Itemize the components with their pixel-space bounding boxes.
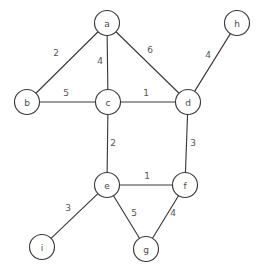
graph-edge-a-d [116,32,179,94]
edge-weight-e-f: 1 [144,171,150,181]
edge-weight-d-h: 4 [205,50,211,60]
edge-weight-c-d: 1 [143,88,149,98]
node-label-g: g [143,245,149,255]
graph-edge-c-e [107,114,108,172]
edge-weight-e-g: 5 [131,208,137,218]
graph-node-c[interactable]: c [96,90,121,115]
edge-weight-d-f: 3 [190,138,196,148]
node-label-a: a [104,19,110,29]
node-label-c: c [106,98,111,108]
graph-svg: 246514231354 abcdefghi [0,0,266,273]
graph-edge-a-b [36,32,98,93]
graph-node-d[interactable]: d [176,90,201,115]
graph-node-i[interactable]: i [30,235,55,260]
graph-edge-d-f [185,114,187,172]
node-label-h: h [234,19,240,29]
edge-weight-e-i: 3 [65,203,71,213]
graph-edge-e-i [51,194,98,239]
graph-node-g[interactable]: g [134,237,159,262]
graph-edge-d-h [195,34,231,92]
graph-node-f[interactable]: f [173,173,198,198]
edge-weight-a-b: 2 [53,48,59,58]
edge-weight-f-g: 4 [170,208,176,218]
graph-diagram: 246514231354 abcdefghi [0,0,266,273]
graph-node-h[interactable]: h [225,11,250,36]
graph-node-b[interactable]: b [15,90,40,115]
edge-weight-b-c: 5 [63,88,69,98]
node-label-e: e [104,181,110,191]
node-label-d: d [185,98,191,108]
graph-node-e[interactable]: e [95,173,120,198]
edge-weight-a-d: 6 [147,45,153,55]
graph-edge-a-c [107,35,108,89]
edge-weight-c-e: 2 [110,138,116,148]
node-label-b: b [24,98,30,108]
graph-node-a[interactable]: a [95,11,120,36]
edge-weight-a-c: 4 [97,56,103,66]
node-label-i: i [41,243,44,253]
